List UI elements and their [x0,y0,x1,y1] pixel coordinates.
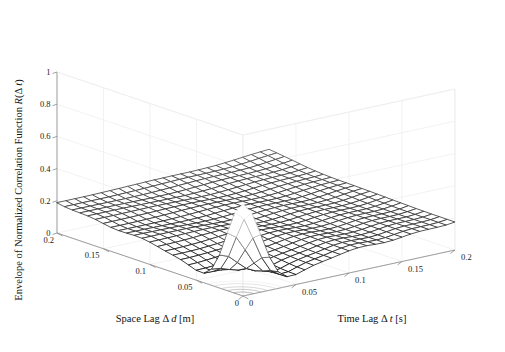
z-tick-0p6: 0.6 [40,131,51,141]
z-tick-0p4: 0.4 [40,164,51,174]
z-tick-0p8: 0.8 [40,99,51,109]
z-tick-1: 1 [46,67,50,77]
z-tick-0p2: 0.2 [40,196,51,206]
space-tick-0p05: 0.05 [178,282,193,292]
time-tick-0p15: 0.15 [408,264,423,274]
space-tick-0p15: 0.15 [85,250,100,260]
space-tick-0p1: 0.1 [135,266,146,276]
time-tick-0p2: 0.2 [461,252,472,262]
plot-canvas: 10.80.60.40.200.20.150.10.05000.050.10.1… [0,0,505,352]
time-tick-0p1: 0.1 [355,275,366,285]
time-tick-0p05: 0.05 [302,287,317,297]
surface-mesh [57,149,455,276]
base-contour [208,281,284,294]
space-tick-0p2: 0.2 [43,235,54,245]
space-tick-0: 0 [235,298,239,308]
figure-3d-surface-plot: 10.80.60.40.200.20.150.10.05000.050.10.1… [0,0,505,352]
time-tick-0: 0 [249,298,253,308]
